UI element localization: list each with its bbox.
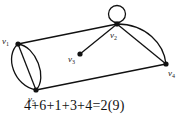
- degree-sum-equation: 4+6+1+3+4=2(9): [24, 98, 125, 114]
- label-v4: v4: [168, 68, 175, 79]
- label-v1: v1: [2, 36, 9, 47]
- edge-v2-loop: [109, 6, 126, 23]
- edge-v1-v2: [18, 24, 117, 44]
- edge-v1-v5-left: [12, 44, 36, 90]
- label-v3: v3: [68, 54, 75, 65]
- label-v2: v2: [110, 30, 117, 41]
- vertex-v5: [33, 87, 38, 92]
- edge-v5-v4: [36, 64, 166, 90]
- vertex-v2: [114, 21, 119, 26]
- edge-v1-v5-straight: [18, 44, 36, 90]
- vertex-v4: [163, 61, 168, 66]
- vertex-v1: [15, 41, 20, 46]
- vertex-v3: [77, 51, 82, 56]
